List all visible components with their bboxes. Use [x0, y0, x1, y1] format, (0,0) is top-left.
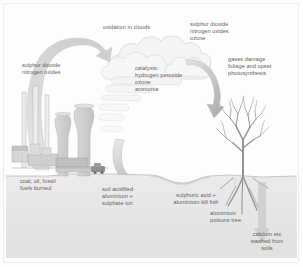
label-leaching: calcium etc washed from soils	[243, 231, 291, 252]
truck	[91, 163, 105, 174]
label-tree-poison: aluminium poisons tree	[210, 210, 241, 224]
label-fish-kill: sulphuric acid + aluminium kill fish	[160, 192, 232, 206]
label-oxidation-in-clouds: oxidation in clouds	[103, 24, 150, 31]
acid-rain-diagram: sulphur dioxide nitrogen oxides oxidatio…	[0, 0, 303, 267]
label-soil-acidified: soil acidified aluminium + sulphate ion	[102, 186, 133, 207]
diagram-canvas	[0, 0, 303, 267]
label-foliage-damage: gases damage foliage and upset photosynt…	[228, 56, 271, 77]
label-upper-right-gases: sulphur dioxide nitrogen oxides ozone	[190, 21, 229, 42]
power-station	[12, 86, 108, 176]
label-source-emissions: sulphur dioxide nitrogen oxides	[22, 62, 61, 76]
label-catalysis: catalysis: hydrogen peroxide ozone ammon…	[135, 65, 182, 93]
label-fuel-source: coal, oil, fossil fuels burned	[20, 178, 56, 192]
